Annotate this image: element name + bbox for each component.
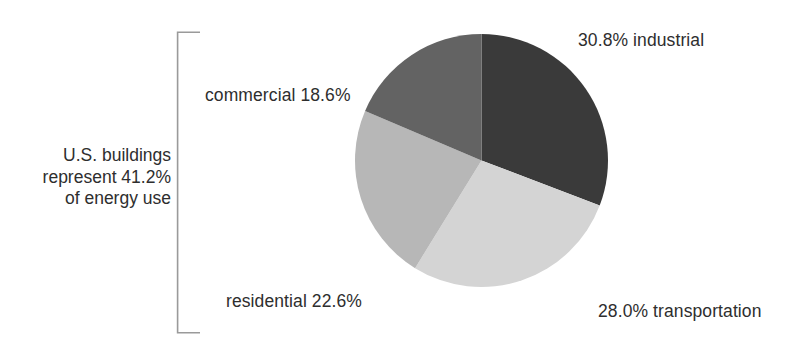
pie-chart-figure: U.S. buildings represent 41.2% of energy… — [0, 0, 800, 364]
slice-label-commercial: commercial 18.6% — [205, 85, 351, 105]
bracket-path — [178, 32, 200, 333]
pie-graphic — [354, 33, 609, 288]
slice-label-transportation: 28.0% transportation — [598, 301, 762, 321]
annotation-line-1: U.S. buildings — [24, 145, 171, 167]
annotation-line-2: represent 41.2% — [24, 167, 171, 189]
slice-label-residential: residential 22.6% — [226, 291, 362, 311]
annotation-bracket — [176, 31, 208, 334]
annotation-line-3: of energy use — [24, 188, 171, 210]
slice-label-industrial: 30.8% industrial — [578, 30, 704, 50]
buildings-annotation: U.S. buildings represent 41.2% of energy… — [24, 145, 171, 210]
